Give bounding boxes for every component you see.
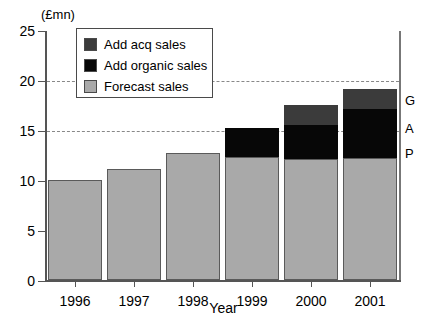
bar-stack: [284, 105, 338, 280]
y-axis-tick-label: 0: [27, 273, 35, 289]
bar-segment-organic: [343, 109, 397, 158]
y-axis-tick-label: 5: [27, 223, 35, 239]
legend-swatch-icon: [84, 38, 97, 51]
x-axis-tick-mark: [311, 281, 312, 287]
x-axis-tick-mark: [193, 281, 194, 287]
y-axis-tick-mark: [38, 231, 46, 232]
plot-right-border: [399, 31, 401, 282]
chart-legend: Add acq salesAdd organic salesForecast s…: [76, 28, 213, 98]
legend-item[interactable]: Forecast sales: [84, 76, 212, 96]
side-annotation-a: A: [405, 121, 414, 136]
x-axis-title-text: Year: [209, 300, 237, 316]
legend-swatch-icon: [84, 80, 97, 93]
bar-segment-acq: [284, 105, 338, 125]
bar-stack: [343, 89, 397, 280]
bar-stack: [48, 180, 102, 280]
y-axis-tick-mark: [38, 131, 46, 132]
bar-stack: [166, 153, 220, 280]
legend-item-label: Add acq sales: [104, 38, 186, 51]
y-axis-line: [45, 31, 47, 281]
y-axis-tick-mark: [38, 81, 46, 82]
legend-item[interactable]: Add acq sales: [84, 34, 212, 54]
bar-stack: [225, 128, 279, 280]
x-axis-title: Year: [0, 300, 427, 316]
legend-item-label: Add organic sales: [104, 59, 207, 72]
bar-segment-organic: [225, 128, 279, 157]
y-axis-tick-mark: [38, 181, 46, 182]
y-axis-tick-label: 25: [19, 23, 35, 39]
x-axis-line: [45, 280, 401, 282]
legend-item[interactable]: Add organic sales: [84, 55, 212, 75]
bar-stack: [107, 169, 161, 280]
x-axis-tick-mark: [134, 281, 135, 287]
x-axis-tick-mark: [75, 281, 76, 287]
legend-swatch-icon: [84, 59, 97, 72]
bar-segment-forecast: [225, 157, 279, 280]
side-annotation-p: P: [405, 146, 414, 161]
bar-segment-forecast: [284, 159, 338, 280]
bar-segment-forecast: [48, 180, 102, 280]
bar-segment-forecast: [107, 169, 161, 280]
side-annotation-g: G: [405, 93, 415, 108]
bar-segment-forecast: [343, 158, 397, 280]
bar-segment-forecast: [166, 153, 220, 280]
y-axis-tick-label: 10: [19, 173, 35, 189]
x-axis-tick-mark: [252, 281, 253, 287]
bar-segment-organic: [284, 125, 338, 159]
legend-item-label: Forecast sales: [104, 80, 189, 93]
y-axis-tick-mark: [38, 281, 46, 282]
chart-figure: (£mn) 0510152025 19961997199819992000200…: [0, 0, 427, 329]
y-axis-tick-mark: [38, 31, 46, 32]
bar-segment-acq: [343, 89, 397, 109]
x-axis-tick-mark: [370, 281, 371, 287]
y-axis-tick-label: 20: [19, 73, 35, 89]
y-axis-tick-label: 15: [19, 123, 35, 139]
y-axis-unit-caption: (£mn): [41, 7, 75, 22]
